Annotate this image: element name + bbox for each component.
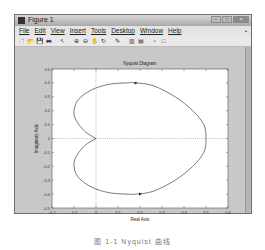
x-tick-label: 0.2 (137, 210, 143, 215)
x-axis-label: Real Axis (131, 217, 151, 222)
x-tick-label: 0.6 (225, 210, 231, 215)
y-tick-label: -0.2 (43, 164, 51, 169)
y-tick-label: -0.3 (43, 178, 51, 183)
figure-caption: 图 1-1 Nyquist 曲线 (0, 236, 265, 246)
y-tick-label: -0.1 (43, 150, 51, 155)
y-tick-label: -0.4 (43, 192, 51, 197)
x-tick-label: -0.1 (71, 210, 79, 215)
y-tick-label: 0.4 (44, 80, 50, 85)
nyquist-plot: Nyquist Diagram-0.2-0.100.10.20.30.40.50… (0, 0, 265, 250)
x-tick-label: -0.2 (49, 210, 57, 215)
x-tick-label: 0.4 (181, 210, 187, 215)
y-axis-label: Imaginary Axis (34, 123, 39, 153)
x-tick-label: 0.1 (115, 210, 121, 215)
x-tick-label: 0.3 (159, 210, 165, 215)
y-tick-label: 0.2 (44, 108, 50, 113)
y-tick-label: -0.5 (43, 206, 51, 211)
chart-title: Nyquist Diagram (123, 61, 157, 66)
x-tick-label: 0.5 (203, 210, 209, 215)
x-tick-label: 0 (95, 210, 98, 215)
y-tick-label: 0 (48, 136, 51, 141)
y-tick-label: 0.1 (44, 122, 50, 127)
y-tick-label: 0.3 (44, 94, 50, 99)
y-tick-label: 0.5 (44, 67, 50, 72)
